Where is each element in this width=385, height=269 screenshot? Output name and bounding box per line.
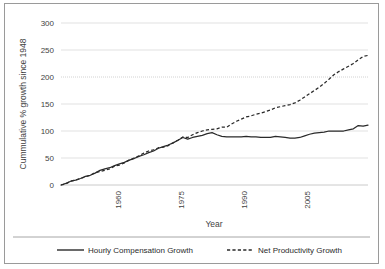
y-tick-label: 0	[50, 181, 55, 190]
y-tick-label: 50	[45, 154, 54, 163]
series-line-hourly-compensation-growth	[61, 125, 368, 185]
y-axis-title: Cummulative % growth since 1948	[18, 38, 28, 169]
x-tick-label: 1960	[114, 190, 123, 208]
x-axis-tick-labels: 1960 1975 1990 2005	[114, 190, 312, 208]
legend-label-hourly-compensation-growth: Hourly Compensation Growth	[88, 246, 193, 255]
gridlines	[61, 23, 368, 185]
y-tick-label: 300	[41, 19, 55, 28]
x-tick-label: 2005	[303, 190, 312, 208]
y-tick-label: 200	[41, 73, 55, 82]
y-axis-tick-labels: 300 250 200 150 100 50 0	[41, 19, 55, 190]
chart-screenshot: 300 250 200 150 100 50 0 Cummulative % g…	[0, 0, 385, 269]
series-line-net-productivity-growth	[61, 55, 368, 185]
legend: Hourly Compensation Growth Net Productiv…	[57, 246, 342, 255]
y-tick-label: 100	[41, 127, 55, 136]
line-chart: 300 250 200 150 100 50 0 Cummulative % g…	[0, 0, 385, 269]
y-tick-label: 150	[41, 100, 55, 109]
y-tick-label: 250	[41, 46, 55, 55]
x-axis-title: Year	[205, 219, 222, 229]
x-tick-label: 1975	[177, 190, 186, 208]
x-tick-label: 1990	[240, 190, 249, 208]
legend-label-net-productivity-growth: Net Productivity Growth	[258, 246, 342, 255]
